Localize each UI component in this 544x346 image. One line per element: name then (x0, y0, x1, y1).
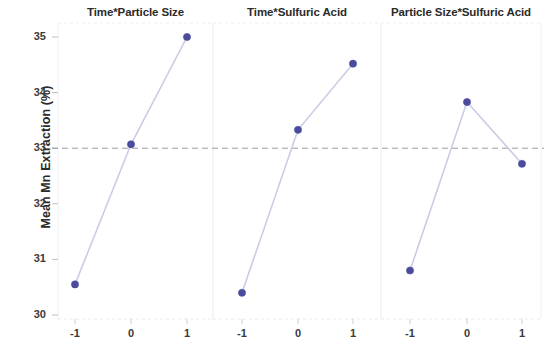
series-line-panel-3 (410, 102, 522, 270)
data-point (463, 98, 470, 105)
series-line-panel-1 (75, 37, 187, 284)
data-point (518, 160, 525, 167)
series-line-panel-2 (242, 64, 353, 293)
interaction-plot-figure: Mean Mn Extraction (%) 303132333435 Time… (0, 0, 544, 346)
data-point (406, 267, 413, 274)
data-point (183, 33, 190, 40)
data-point (127, 141, 134, 148)
data-point (349, 60, 356, 67)
data-point (71, 281, 78, 288)
plot-area (0, 0, 544, 346)
data-point (238, 289, 245, 296)
data-point (294, 126, 301, 133)
